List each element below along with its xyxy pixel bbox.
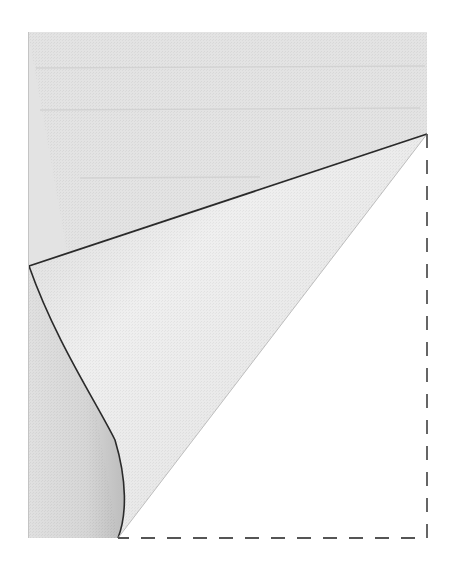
folded-corner-diagram [0,0,458,568]
